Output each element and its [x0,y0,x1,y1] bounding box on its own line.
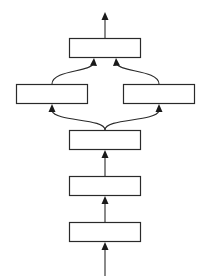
node-right-branch [124,85,195,104]
node-top [70,39,141,58]
output-arrow [102,12,109,38]
arrowhead-icon [102,242,109,250]
edge-left-to-top [52,58,97,84]
arrowhead-icon [113,58,120,66]
node-middle [70,131,141,150]
arrowhead-icon [49,104,56,112]
arrowhead-icon [156,104,163,112]
node-bottom [70,223,141,242]
edge-bottom-to-lower [102,196,109,222]
input-arrow [102,242,109,276]
edge-middle-to-right [105,104,163,130]
edge-middle-to-left [49,104,106,130]
edge-right-to-top [113,58,159,84]
node-lower-middle [70,177,141,196]
node-left-branch [17,85,88,104]
arrowhead-icon [102,150,109,158]
arrowhead-icon [102,196,109,204]
edge-lower-to-middle [102,150,109,176]
flow-diagram [0,0,204,276]
arrowhead-icon [90,58,97,66]
arrowhead-icon [102,12,109,20]
